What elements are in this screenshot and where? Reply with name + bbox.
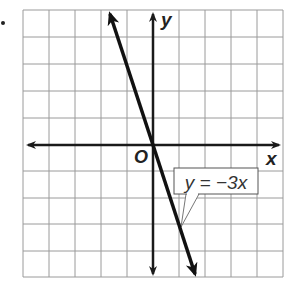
x-axis-label: x: [265, 148, 278, 169]
equation-label: y = −3x: [183, 172, 249, 193]
bullet-dot: [1, 21, 5, 25]
origin-label: O: [134, 147, 148, 167]
coordinate-plane: y = −3x y x O: [0, 0, 287, 293]
line-y-neg3x-up: [110, 14, 153, 145]
y-axis-label: y: [160, 9, 173, 30]
